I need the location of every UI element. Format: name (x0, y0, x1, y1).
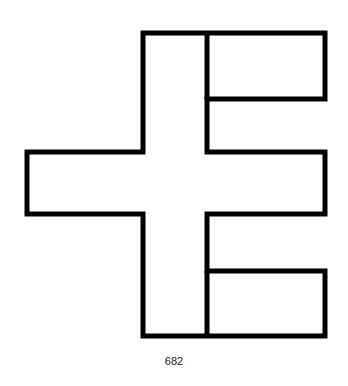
figure-number: 682 (0, 355, 348, 367)
cross-shape-diagram (0, 0, 348, 386)
figure-page: 682 (0, 0, 348, 386)
cross-outline (27, 33, 325, 336)
